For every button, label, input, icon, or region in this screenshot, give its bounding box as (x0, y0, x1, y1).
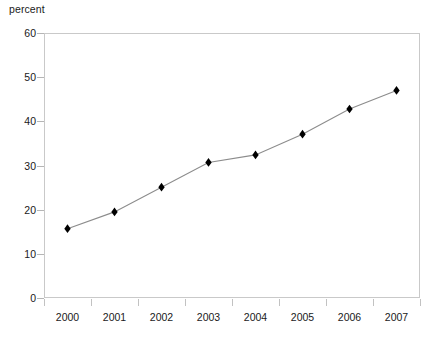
y-axis-tick-label: 20 (8, 204, 36, 216)
x-axis-tick-label: 2000 (56, 311, 79, 323)
y-axis-tick-mark (37, 210, 44, 211)
x-axis-tick-mark (420, 299, 421, 306)
y-axis-tick-label: 50 (8, 71, 36, 83)
x-axis-tick-mark (44, 299, 45, 306)
x-axis-tick-label: 2001 (103, 311, 126, 323)
y-axis-tick-label: 60 (8, 27, 36, 39)
plot-area (44, 33, 420, 298)
x-axis-tick-mark (185, 299, 186, 306)
x-axis-tick-label: 2003 (197, 311, 220, 323)
x-axis-tick-label: 2005 (291, 311, 314, 323)
y-axis-tick-label: 40 (8, 115, 36, 127)
x-axis-tick-mark (326, 299, 327, 306)
x-axis-tick-mark (232, 299, 233, 306)
y-axis-tick-mark (37, 33, 44, 34)
y-axis-tick-mark (37, 254, 44, 255)
y-axis-tick-mark (37, 77, 44, 78)
y-axis-tick-label: 10 (8, 248, 36, 260)
x-axis-tick-mark (279, 299, 280, 306)
x-axis-tick-label: 2004 (244, 311, 267, 323)
x-axis-tick-label: 2007 (385, 311, 408, 323)
x-axis-tick-mark (373, 299, 374, 306)
x-axis-tick-label: 2006 (338, 311, 361, 323)
y-axis-tick-labels: 0102030405060 (0, 0, 36, 338)
line-chart: percent 0102030405060 200020012002200320… (0, 0, 438, 338)
x-axis-tick-label: 2002 (150, 311, 173, 323)
x-axis-tick-mark (138, 299, 139, 306)
y-axis-tick-mark (37, 121, 44, 122)
y-axis-tick-label: 0 (8, 292, 36, 304)
y-axis-tick-label: 30 (8, 160, 36, 172)
x-axis-tick-mark (91, 299, 92, 306)
y-axis-tick-mark (37, 298, 44, 299)
y-axis-tick-mark (37, 166, 44, 167)
